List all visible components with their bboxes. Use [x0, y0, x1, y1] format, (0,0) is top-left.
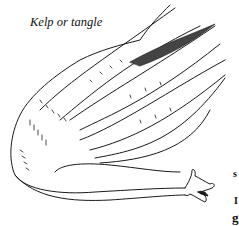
frond-5: [80, 60, 225, 140]
stipe-lower: [15, 175, 185, 200]
holdfast: [185, 169, 214, 202]
frond-3: [70, 26, 215, 120]
frond-8: [100, 110, 210, 163]
edge-text-fragment: s: [233, 168, 237, 179]
kelp-illustration: [0, 0, 239, 226]
frond-6: [90, 75, 225, 150]
holdfast-dark: [198, 191, 208, 196]
frond-hatched: [130, 24, 215, 66]
edge-text-fragment: g: [232, 210, 239, 226]
edge-text-fragment: I: [234, 195, 238, 206]
stipe-upper: [55, 164, 180, 172]
